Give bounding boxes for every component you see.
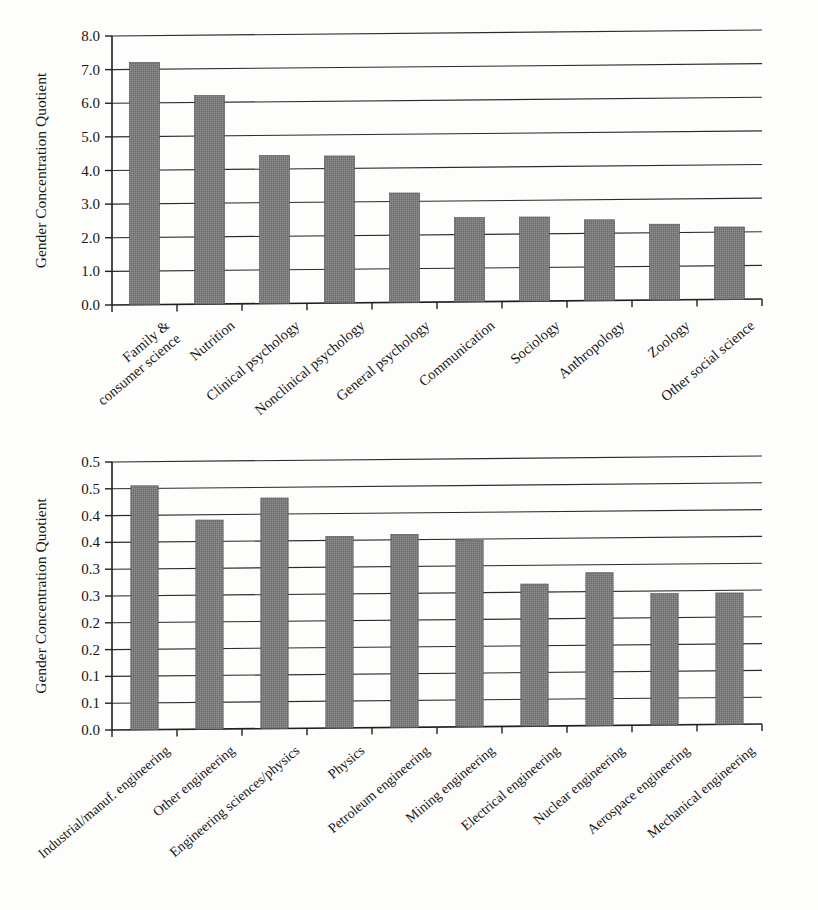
x-axis-label-line: Mechanical engineering — [644, 743, 757, 841]
bar — [456, 540, 483, 727]
chart-panel-bottom: Gender Concentration Quotient0.00.10.10.… — [0, 430, 818, 910]
y-tick-label: 3.0 — [81, 196, 100, 212]
y-axis-title-bottom: Gender Concentration Quotient — [32, 498, 49, 694]
x-axis-label: Nutrition — [186, 317, 238, 364]
bars-bottom — [131, 486, 743, 730]
bar — [130, 63, 160, 305]
gridline — [112, 64, 762, 70]
x-axis-label: Nonclinical psychology — [251, 317, 368, 419]
x-axis-label: Engineering sciences/physics — [167, 743, 303, 860]
x-axis-label-line: Industrial/manuf. engineering — [35, 743, 172, 861]
y-tick-label: 2.0 — [81, 230, 100, 246]
bar — [651, 594, 678, 725]
y-tick-label: 0.0 — [81, 722, 100, 738]
x-axis-labels-top: Family &consumer scienceNutritionClinica… — [83, 317, 757, 419]
y-tick-label: 8.0 — [81, 28, 100, 44]
bar — [390, 193, 420, 302]
y-tick-label: 0.4 — [81, 508, 100, 524]
x-axis-label-line: Engineering sciences/physics — [167, 743, 303, 860]
bar — [261, 498, 288, 728]
x-axis-label: Zoology — [644, 317, 692, 361]
bar — [585, 220, 615, 301]
x-axis-label-line: Sociology — [507, 317, 563, 368]
bar — [520, 217, 550, 301]
x-axis-label-line: Nonclinical psychology — [251, 317, 368, 419]
bar — [131, 486, 158, 730]
y-tick-label: 0.2 — [81, 615, 100, 631]
x-axis-label: Family &consumer science — [83, 317, 183, 409]
gridline — [112, 456, 762, 462]
x-axis-label: Mechanical engineering — [644, 743, 757, 841]
bar — [326, 537, 353, 728]
bar — [391, 534, 418, 727]
bar — [521, 584, 548, 726]
y-tick-label: 1.0 — [81, 263, 100, 279]
x-axis-label: Sociology — [507, 317, 563, 368]
y-tick-label: 0.0 — [81, 297, 100, 313]
bar — [455, 218, 485, 302]
bar — [325, 156, 355, 303]
x-axis-labels-bottom: Industrial/manuf. engineeringOther engin… — [35, 743, 757, 861]
gridline — [112, 30, 762, 36]
gridline — [112, 483, 762, 489]
y-tick-label: 0.5 — [81, 454, 100, 470]
y-tick-label: 4.0 — [81, 163, 100, 179]
y-axis-title-top: Gender Concentration Quotient — [32, 72, 49, 268]
y-tick-label: 0.1 — [81, 668, 100, 684]
x-axis-label: Industrial/manuf. engineering — [35, 743, 172, 861]
bar — [650, 224, 680, 300]
y-tick-label: 0.5 — [81, 481, 100, 497]
y-tick-label: 0.3 — [81, 588, 100, 604]
y-tick-label: 0.2 — [81, 642, 100, 658]
bar-chart-top: Gender Concentration Quotient0.01.02.03.… — [0, 0, 818, 430]
bar — [196, 520, 223, 729]
x-axis-label-line: Physics — [325, 743, 367, 782]
bar — [715, 227, 745, 299]
y-tick-label: 0.1 — [81, 695, 100, 711]
x-axis-label: Anthropology — [555, 317, 628, 382]
x-axis-label-line: Zoology — [644, 317, 692, 361]
x-axis-label-line: Anthropology — [555, 317, 628, 382]
bar — [586, 573, 613, 726]
y-tick-label: 0.4 — [81, 534, 100, 550]
x-axis-label: Physics — [325, 743, 367, 782]
chart-panel-top: Gender Concentration Quotient0.01.02.03.… — [0, 0, 818, 430]
bar — [716, 593, 743, 724]
x-axis-label-line: Nutrition — [186, 317, 238, 364]
gridline — [112, 510, 762, 516]
y-tick-label: 0.3 — [81, 561, 100, 577]
y-tick-label: 7.0 — [81, 62, 100, 78]
y-tick-label: 6.0 — [81, 95, 100, 111]
bar — [195, 96, 225, 304]
bar-chart-bottom: Gender Concentration Quotient0.00.10.10.… — [0, 430, 818, 910]
y-tick-label: 5.0 — [81, 129, 100, 145]
bar — [260, 156, 290, 304]
